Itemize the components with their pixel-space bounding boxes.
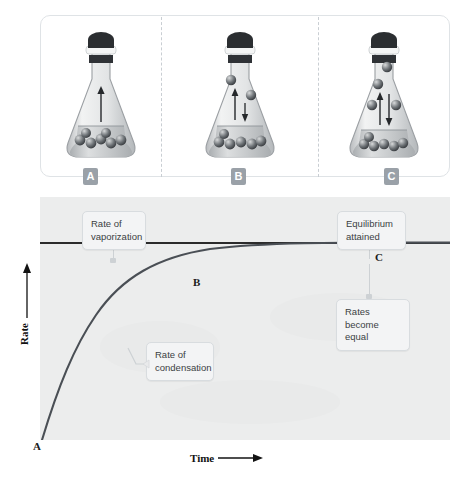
- stage-chip-c: C: [384, 168, 399, 185]
- callout-line-2: condensation: [155, 362, 205, 375]
- callout-rate-of-condensation: Rate of condensation: [146, 342, 214, 381]
- flask-stage-b: [161, 16, 318, 178]
- callout-line-2: vaporization: [91, 231, 137, 244]
- flask-stage-panel: [40, 15, 450, 177]
- callout-line-1: Rate of: [91, 218, 137, 231]
- x-axis-label: Time: [190, 452, 214, 464]
- y-axis-label-group: Rate: [12, 262, 38, 382]
- callout-line-1: Equilibrium: [346, 218, 397, 231]
- stage-chip-b: B: [231, 168, 246, 185]
- flask-stage-c: [318, 16, 450, 178]
- flask-icon-stage-a: [58, 27, 144, 167]
- flask-icon-stage-c: [341, 27, 427, 167]
- stage-chip-a: A: [83, 168, 98, 185]
- flask-icon-stage-b: [197, 27, 283, 167]
- callout-line-2: equal: [345, 331, 401, 344]
- curve-point-label-b: B: [193, 276, 200, 288]
- x-axis-arrow-icon: [218, 452, 264, 464]
- callout-rate-of-vaporization: Rate of vaporization: [82, 211, 146, 250]
- curve-point-label-a: A: [33, 440, 41, 452]
- x-axis-label-group: Time: [190, 452, 264, 464]
- y-axis-label: Rate: [18, 304, 30, 364]
- callout-line-1: Rates become: [345, 306, 401, 331]
- callout-equilibrium-attained: Equilibrium attained: [337, 211, 406, 250]
- callout-line-1: Rate of: [155, 349, 205, 362]
- leader-line-condensation: [126, 346, 150, 374]
- curve-point-label-c: C: [375, 251, 383, 263]
- callout-line-2: attained: [346, 231, 397, 244]
- callout-rates-become-equal: Rates become equal: [336, 299, 410, 351]
- flask-stage-a: [41, 16, 161, 178]
- leader-anchor-vaporization: [110, 258, 116, 263]
